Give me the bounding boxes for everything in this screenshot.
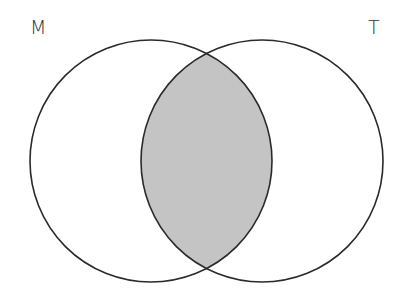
set-label-t: T xyxy=(368,18,380,37)
venn-svg xyxy=(0,0,400,294)
intersection-region xyxy=(141,40,383,282)
set-label-m: M xyxy=(30,18,46,37)
venn-diagram: M T xyxy=(0,0,400,294)
